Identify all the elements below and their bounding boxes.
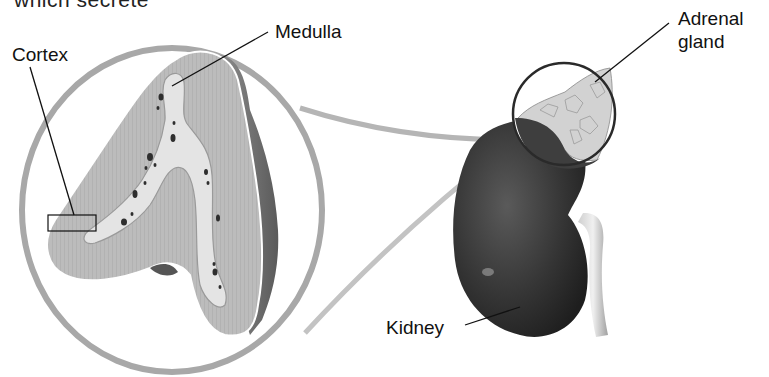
adrenal-leader-line (595, 23, 669, 82)
label-cortex: Cortex (12, 44, 68, 66)
label-kidney: Kidney (386, 317, 444, 339)
diagram-artwork (0, 0, 769, 377)
label-adrenal-line2: gland (678, 31, 725, 53)
label-adrenal-line1: Adrenal (678, 8, 744, 30)
adrenal-gland-diagram: which secrete (0, 0, 769, 377)
label-medulla: Medulla (275, 21, 342, 43)
